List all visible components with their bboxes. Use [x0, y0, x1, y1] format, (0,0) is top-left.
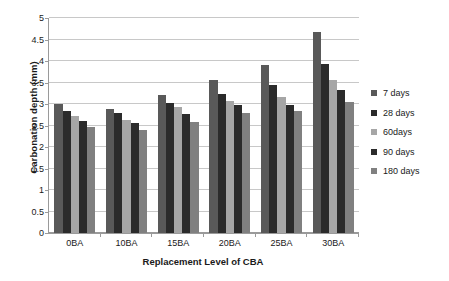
bar-group: 10BA	[101, 18, 153, 233]
bar-chart: Carbonation depth (mm) 00.511.522.533.54…	[0, 0, 449, 281]
x-tick-label: 25BA	[256, 238, 308, 248]
bar	[131, 123, 139, 233]
bar	[321, 64, 329, 233]
y-axis-title: Carbonation depth (mm)	[28, 23, 39, 213]
bar	[329, 80, 337, 233]
legend-item: 60days	[371, 127, 420, 137]
bar	[106, 109, 114, 233]
legend-swatch-icon	[371, 149, 377, 155]
y-tick-label: 4	[39, 56, 44, 66]
y-tick-label: 3	[39, 99, 44, 109]
bar	[87, 127, 95, 233]
bar-group: 30BA	[307, 18, 359, 233]
bar-group: 0BA	[49, 18, 101, 233]
y-tick-label: 3.5	[31, 78, 44, 88]
bar	[242, 113, 250, 233]
legend-swatch-icon	[371, 110, 377, 116]
y-tick-label: 2	[39, 142, 44, 152]
bar-group: 20BA	[204, 18, 256, 233]
legend-label: 28 days	[383, 108, 415, 118]
bar	[313, 32, 321, 233]
x-tick-mark	[151, 233, 152, 237]
bar	[345, 102, 353, 233]
x-tick-mark	[358, 233, 359, 237]
legend-swatch-icon	[371, 168, 377, 174]
bar	[218, 94, 226, 233]
bar	[166, 103, 174, 233]
legend-item: 180 days	[371, 166, 420, 176]
legend-swatch-icon	[371, 129, 377, 135]
x-tick-label: 30BA	[307, 238, 359, 248]
legend-item: 7 days	[371, 88, 420, 98]
bar	[294, 111, 302, 233]
legend: 7 days28 days60days90 days180 days	[371, 88, 420, 176]
bar	[158, 95, 166, 233]
bar-group: 15BA	[152, 18, 204, 233]
plot-area: 00.511.522.533.544.55 0BA10BA15BA20BA25B…	[48, 18, 359, 234]
bar	[226, 101, 234, 233]
y-tick-label: 4.5	[31, 35, 44, 45]
x-tick-label: 10BA	[101, 238, 153, 248]
bar	[269, 85, 277, 233]
bar	[122, 120, 130, 233]
legend-item: 90 days	[371, 147, 420, 157]
y-tick-label: 1	[39, 185, 44, 195]
y-tick-label: 1.5	[31, 164, 44, 174]
bar	[54, 104, 62, 233]
bar	[190, 122, 198, 233]
y-tick-label: 5	[39, 13, 44, 23]
legend-swatch-icon	[371, 90, 377, 96]
x-tick-label: 20BA	[204, 238, 256, 248]
y-tick-label: 2.5	[31, 121, 44, 131]
bar	[79, 121, 87, 233]
bar	[114, 113, 122, 233]
y-tick-label: 0	[39, 228, 44, 238]
bar	[209, 80, 217, 233]
legend-label: 180 days	[383, 166, 420, 176]
bar-groups: 0BA10BA15BA20BA25BA30BA	[49, 18, 359, 233]
x-tick-mark	[306, 233, 307, 237]
bar	[63, 111, 71, 233]
legend-label: 7 days	[383, 88, 410, 98]
bar	[261, 65, 269, 233]
legend-item: 28 days	[371, 108, 420, 118]
bar	[234, 105, 242, 233]
x-tick-mark	[255, 233, 256, 237]
legend-label: 60days	[383, 127, 412, 137]
bar	[286, 105, 294, 233]
x-tick-label: 0BA	[49, 238, 101, 248]
legend-label: 90 days	[383, 147, 415, 157]
bar	[277, 97, 285, 233]
x-tick-mark	[100, 233, 101, 237]
x-tick-mark	[203, 233, 204, 237]
bar	[71, 116, 79, 233]
y-tick-label: 0.5	[31, 207, 44, 217]
bar	[174, 107, 182, 233]
y-tick-mark	[45, 233, 49, 234]
bar	[139, 130, 147, 233]
bar-group: 25BA	[256, 18, 308, 233]
bar	[337, 90, 345, 233]
x-axis-title: Replacement Level of CBA	[48, 256, 358, 267]
bar	[182, 114, 190, 233]
x-tick-label: 15BA	[152, 238, 204, 248]
